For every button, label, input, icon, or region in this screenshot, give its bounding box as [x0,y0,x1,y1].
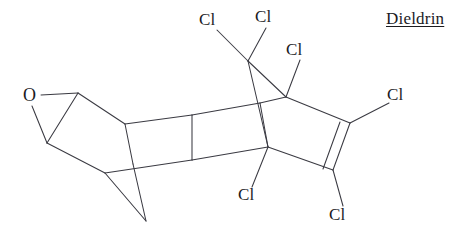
chlorine-substituent-bonds [252,60,389,206]
bond-ring-c-to-bridge-bottom [133,164,146,221]
bond-cyclohexane-tl-to-tr [192,103,260,115]
bond-epoxide-top-to-ring-a [78,93,125,124]
epoxide-ring-bonds [32,93,78,143]
bond-ring-b-to-bridge-bottom [105,173,146,221]
bond-alkene-double-inner [323,122,340,169]
bond-cage-top-to-chlorine-3 [286,60,300,97]
bond-ring-b-to-cyclohexane-bl [105,160,192,173]
bond-alkene-bottom-to-cyclohexane-br [268,147,333,170]
bond-o-to-epoxide-bottom [32,106,47,143]
bond-bridge-apex-to-cyclohexane-tr [248,61,286,97]
structure-canvas: O Cl Cl Cl Cl Cl Cl Dieldrin [0,0,473,235]
bond-bridge-apex-to-chlorine-2 [248,28,266,61]
atom-label-chlorine-4: Cl [387,86,403,103]
bond-epoxide-bottom-to-ring-b [47,143,105,173]
bond-bridge-apex-to-cyclohexane-br [248,61,268,147]
bond-bridge-apex-to-chlorine-1 [217,30,248,61]
atom-label-chlorine-1: Cl [199,11,215,28]
atom-label-oxygen: O [23,86,36,104]
bond-alkene-bottom-to-chlorine-5 [333,170,343,206]
compound-title: Dieldrin [386,9,444,29]
atom-label-chlorine-5: Cl [329,206,345,223]
bond-o-to-epoxide-top [41,93,78,95]
bond-alkene-double-outer [333,123,350,170]
dichloromethano-bridge-bonds [217,28,286,147]
bond-ring-a-to-ring-c [125,124,133,164]
bond-cage-top-to-alkene-top [286,97,350,123]
bond-cyclohexane-br-to-chlorine-6 [252,147,268,187]
cyclohexane-ring-bonds [125,103,268,160]
bond-cyclohexane-tr-to-cage-top [260,97,286,103]
atom-label-chlorine-6: Cl [238,186,254,203]
atom-label-chlorine-2: Cl [255,8,271,25]
atom-label-chlorine-3: Cl [286,41,302,58]
molecule-bond-drawing [0,0,473,235]
bond-cyclohexane-bl-to-br [192,147,268,160]
norbornane-left-bonds [47,93,192,221]
bond-epoxide-top-bottom [47,93,78,143]
bond-ring-a-to-cyclohexane-tl [125,115,192,124]
cyclopentene-ring-bonds [260,97,350,170]
bond-alkene-top-to-chlorine-4 [350,103,389,123]
